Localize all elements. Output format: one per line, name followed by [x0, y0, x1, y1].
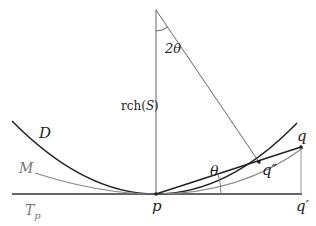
angle-arc-2theta	[156, 27, 168, 31]
label-p: p	[152, 199, 162, 214]
label-tp-main: T	[25, 202, 34, 218]
point-q	[299, 145, 303, 149]
point-p	[154, 192, 158, 196]
label-theta: θ	[210, 164, 218, 178]
label-q-double-prime: q″	[262, 163, 277, 178]
label-reach-suffix: )	[154, 99, 159, 113]
curve-d	[12, 121, 297, 194]
label-d: D	[39, 126, 51, 141]
label-m: M	[19, 161, 33, 175]
label-reach: rch(S)	[121, 100, 159, 112]
label-reach-set: S	[146, 99, 154, 113]
geometry-figure	[0, 0, 316, 226]
point-q-double-prime	[257, 160, 261, 164]
angle-arc-theta	[218, 174, 221, 194]
label-q-prime: q′	[296, 199, 309, 214]
diagram-canvas: 2θ rch(S) D M Tp p θ q q″ q′	[0, 0, 316, 226]
chord-p-q	[156, 147, 301, 194]
slant-line	[156, 10, 259, 162]
label-tp-subscript: p	[34, 210, 40, 221]
label-tp: Tp	[25, 203, 41, 221]
label-two-theta: 2θ	[165, 42, 181, 55]
label-reach-prefix: rch(	[121, 99, 146, 113]
label-q: q	[297, 129, 307, 144]
